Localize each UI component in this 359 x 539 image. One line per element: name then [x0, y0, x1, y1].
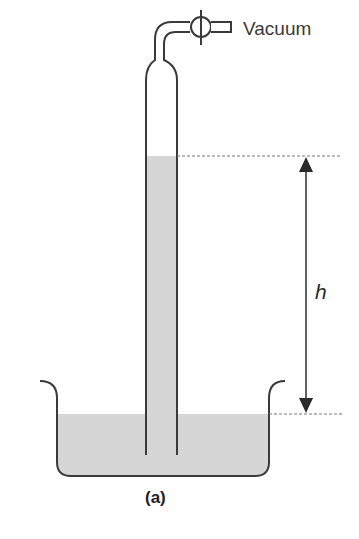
tube-liquid-column — [146, 156, 176, 456]
vacuum-label: Vacuum — [243, 18, 311, 39]
height-arrow-icon — [299, 157, 313, 413]
barometer-diagram: Vacuum h (a) — [0, 0, 359, 539]
figure-caption: (a) — [145, 488, 166, 507]
height-label: h — [315, 280, 327, 303]
stopcock-valve-icon — [191, 10, 231, 45]
